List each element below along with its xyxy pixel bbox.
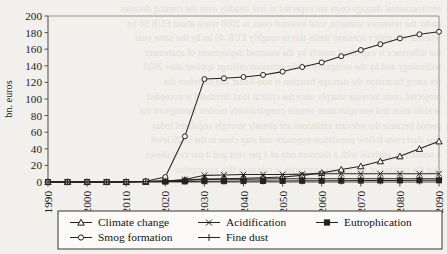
marker-circle bbox=[437, 29, 442, 34]
x-tick-label: 2010 bbox=[120, 191, 132, 214]
marker-circle bbox=[358, 48, 363, 53]
y-tick-label: 120 bbox=[25, 76, 42, 88]
x-tick-label: 2020 bbox=[159, 191, 171, 214]
marker-circle bbox=[397, 36, 402, 41]
x-tick-label: 2090 bbox=[433, 191, 445, 214]
y-tick-label: 140 bbox=[25, 60, 42, 72]
marker-triangle bbox=[436, 138, 442, 144]
marker-circle bbox=[378, 42, 383, 47]
x-tick-label: 2000 bbox=[81, 191, 93, 214]
y-tick-label: 100 bbox=[25, 93, 42, 105]
marker-circle bbox=[339, 54, 344, 59]
x-tick-label: 2060 bbox=[316, 191, 328, 214]
marker-circle bbox=[417, 32, 422, 37]
legend-label: Eutrophication bbox=[344, 216, 412, 228]
legend-label: Climate change bbox=[98, 216, 169, 228]
legend-label: Acidification bbox=[226, 216, 286, 228]
y-tick-label: 0 bbox=[36, 176, 42, 188]
y-tick-label: 160 bbox=[25, 43, 42, 55]
marker-circle bbox=[300, 65, 305, 70]
marker-square bbox=[324, 220, 329, 225]
marker-circle bbox=[241, 75, 246, 80]
legend-label: Fine dust bbox=[226, 231, 269, 243]
marker-circle bbox=[78, 235, 83, 240]
legend-label: Smog formation bbox=[98, 231, 173, 243]
x-tick-label: 2050 bbox=[277, 191, 289, 214]
marker-circle bbox=[261, 72, 266, 77]
marker-circle bbox=[182, 134, 187, 139]
x-tick-label: 2070 bbox=[355, 191, 367, 214]
y-tick-label: 60 bbox=[31, 126, 43, 138]
x-tick-label: 2040 bbox=[238, 191, 250, 214]
marker-circle bbox=[202, 77, 207, 82]
x-tick-label: 2030 bbox=[198, 191, 210, 214]
y-axis-title: bn. euros bbox=[3, 80, 14, 117]
marker-circle bbox=[319, 60, 324, 65]
x-tick-label: 1990 bbox=[42, 191, 54, 214]
y-tick-label: 200 bbox=[25, 10, 42, 22]
y-tick-label: 80 bbox=[31, 110, 43, 122]
chart-container: 020406080100120140160180200bn. euros1990… bbox=[0, 0, 447, 254]
x-tick-label: 2080 bbox=[394, 191, 406, 214]
marker-circle bbox=[280, 69, 285, 74]
y-tick-label: 40 bbox=[31, 143, 43, 155]
marker-circle bbox=[221, 76, 226, 81]
y-tick-label: 180 bbox=[25, 27, 42, 39]
y-tick-label: 20 bbox=[31, 159, 43, 171]
line-chart: 020406080100120140160180200bn. euros1990… bbox=[0, 0, 447, 254]
